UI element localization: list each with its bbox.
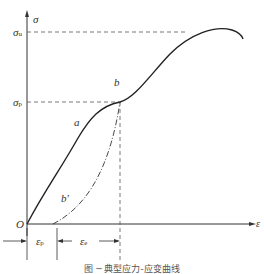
sigma-u-label: σu — [13, 27, 22, 38]
curve-label-a: a — [74, 117, 80, 128]
origin-label: O — [16, 219, 24, 230]
eps-p-arrow-icon — [21, 239, 27, 243]
loading-curve — [27, 29, 243, 224]
y-axis-label: σ — [33, 14, 38, 25]
eps-e-left-arrow-icon — [57, 239, 63, 243]
curve-label-b-prime: b′ — [61, 193, 69, 204]
eps-e-right-arrow-icon — [114, 239, 120, 243]
x-axis-label: ε — [256, 219, 260, 229]
x-axis-arrow-icon — [249, 222, 256, 226]
figure-caption: 图 ─ 典型应力-应变曲线 — [0, 265, 264, 274]
curve-label-b: b — [114, 77, 120, 88]
eps-p-label: εp — [36, 236, 44, 247]
eps-e-label: εe — [80, 236, 87, 247]
sigma-p-label: σp — [13, 97, 22, 108]
y-axis-arrow-icon — [25, 10, 29, 17]
